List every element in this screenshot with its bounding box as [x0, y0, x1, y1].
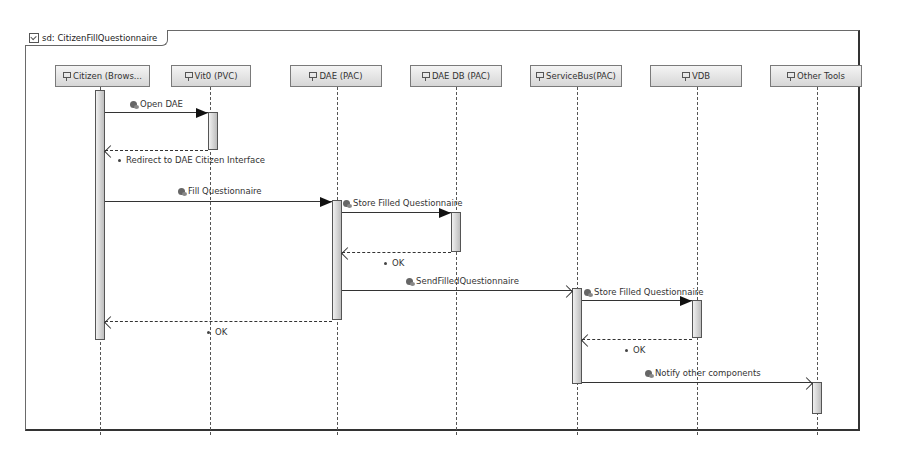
- diagram-icon: [29, 33, 39, 43]
- message-ok-dae[interactable]: [105, 321, 332, 322]
- message-label: Open DAE: [130, 99, 183, 109]
- lifeline-icon: [63, 72, 70, 81]
- message-label: OK: [384, 258, 404, 268]
- arrow-head-icon: [320, 197, 332, 207]
- message-text: SendFilledQuestionnaire: [416, 276, 519, 286]
- lifeline-head-dae[interactable]: DAE (PAC): [290, 65, 382, 87]
- frame-title: sd: CitizenFillQuestionnaire: [42, 33, 157, 43]
- activation-daedb[interactable]: [451, 212, 461, 252]
- lifeline-icon: [422, 72, 429, 81]
- activation-citizen[interactable]: [95, 90, 105, 340]
- lifeline-icon: [185, 72, 192, 81]
- arrow-head-icon: [439, 208, 451, 218]
- lifeline-head-citizen[interactable]: Citizen (Brows...: [55, 65, 150, 87]
- activation-vit0[interactable]: [208, 112, 218, 150]
- message-store-dae-db[interactable]: [342, 212, 451, 213]
- lifeline-label: DAE (PAC): [319, 71, 362, 81]
- message-store-vdb[interactable]: [582, 300, 692, 301]
- message-ok-vdb[interactable]: [582, 339, 692, 340]
- activation-othertools[interactable]: [812, 382, 822, 414]
- lifeline-head-vdb[interactable]: VDB: [650, 65, 742, 87]
- reply-icon: [625, 349, 628, 352]
- message-label: SendFilledQuestionnaire: [406, 276, 519, 286]
- message-text: Store Filled Questionnaire: [353, 198, 462, 208]
- message-label: OK: [625, 345, 645, 355]
- message-redirect[interactable]: [105, 150, 208, 151]
- message-label: Store Filled Questionnaire: [343, 198, 462, 208]
- message-label: Fill Questionnaire: [178, 186, 262, 196]
- message-notify-other-components[interactable]: [582, 382, 812, 383]
- message-label: Notify other components: [645, 368, 761, 378]
- lifeline-label: Vit0 (PVC): [195, 71, 238, 81]
- message-ok-daedb[interactable]: [342, 252, 451, 253]
- message-open-dae[interactable]: [105, 112, 208, 113]
- message-text: Fill Questionnaire: [188, 186, 262, 196]
- activation-servicebus[interactable]: [572, 288, 582, 384]
- reply-icon: [118, 159, 121, 162]
- lifeline-icon: [536, 72, 543, 81]
- lifeline-head-vit0[interactable]: Vit0 (PVC): [171, 65, 251, 87]
- message-fill-questionnaire[interactable]: [105, 201, 332, 202]
- lifeline-icon: [787, 72, 794, 81]
- frame-title-tab: sd: CitizenFillQuestionnaire: [25, 30, 168, 46]
- lifeline-label: Citizen (Brows...: [73, 71, 142, 81]
- message-text: Notify other components: [655, 368, 761, 378]
- message-icon: [343, 200, 350, 207]
- arrow-head-icon: [196, 108, 208, 118]
- message-text: OK: [633, 345, 645, 355]
- message-text: Redirect to DAE Citizen Interface: [126, 155, 265, 165]
- reply-icon: [384, 262, 387, 265]
- message-text: OK: [392, 258, 404, 268]
- lifeline-label: DAE DB (PAC): [432, 71, 490, 81]
- activation-vdb[interactable]: [692, 300, 702, 338]
- lifeline-head-othertools[interactable]: Other Tools: [770, 65, 862, 87]
- lifeline-daedb: [456, 87, 457, 435]
- lifeline-icon: [682, 72, 689, 81]
- lifeline-head-servicebus[interactable]: ServiceBus(PAC): [530, 65, 622, 87]
- lifeline-label: VDB: [692, 71, 710, 81]
- message-label: OK: [207, 327, 227, 337]
- activation-dae[interactable]: [332, 200, 342, 320]
- lifeline-icon: [309, 72, 316, 81]
- message-send-filled-questionnaire[interactable]: [342, 290, 572, 291]
- message-label: Redirect to DAE Citizen Interface: [118, 155, 265, 165]
- reply-icon: [207, 331, 210, 334]
- message-icon: [178, 188, 185, 195]
- message-icon: [130, 101, 137, 108]
- message-icon: [645, 370, 652, 377]
- arrow-head-icon: [680, 296, 692, 306]
- lifeline-label: Other Tools: [797, 71, 845, 81]
- message-text: Open DAE: [140, 99, 183, 109]
- lifeline-head-daedb[interactable]: DAE DB (PAC): [410, 65, 502, 87]
- message-icon: [584, 289, 591, 296]
- message-text: OK: [215, 327, 227, 337]
- message-icon: [406, 278, 413, 285]
- lifeline-label: ServiceBus(PAC): [546, 71, 616, 81]
